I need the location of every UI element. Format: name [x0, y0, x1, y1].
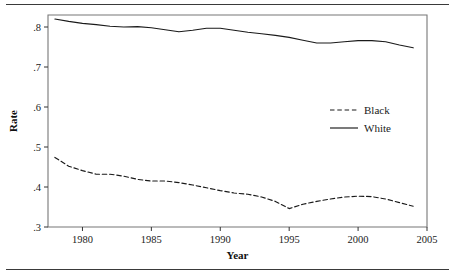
y-axis-tick-label: .3 — [33, 222, 41, 233]
series-line-black — [55, 157, 413, 208]
y-axis-tick-label: .7 — [33, 62, 41, 73]
figure: .3.4.5.6.7.8198019851990199520002005 Bla… — [0, 0, 455, 278]
x-axis-tick-label: 1995 — [279, 234, 300, 245]
legend-label-black: Black — [364, 104, 390, 116]
x-axis-tick-label: 1990 — [210, 234, 231, 245]
y-axis-tick-label: .8 — [33, 22, 41, 33]
y-axis-title: Rate — [7, 110, 19, 132]
chart-canvas: .3.4.5.6.7.8198019851990199520002005 Bla… — [0, 0, 455, 278]
x-axis-title: Year — [227, 249, 249, 261]
y-axis-tick-label: .6 — [33, 102, 41, 113]
legend-label-white: White — [364, 122, 391, 134]
series-line-white — [55, 19, 413, 48]
plot-frame — [48, 15, 427, 227]
x-axis-tick-label: 2000 — [348, 234, 369, 245]
y-axis-tick-label: .5 — [33, 142, 41, 153]
x-axis-tick-label: 1985 — [141, 234, 162, 245]
y-axis-tick-label: .4 — [33, 182, 42, 193]
x-axis-tick-label: 1980 — [72, 234, 93, 245]
x-axis-tick-label: 2005 — [417, 234, 438, 245]
